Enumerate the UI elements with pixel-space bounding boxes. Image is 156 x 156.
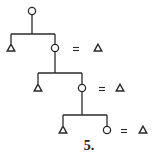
circle-node-icon <box>103 126 110 133</box>
tree-diagram <box>0 0 156 156</box>
triangle-node-icon <box>7 44 15 51</box>
circle-node-icon <box>51 44 58 51</box>
triangle-node-icon <box>34 84 42 91</box>
triangle-node-icon <box>139 126 147 133</box>
figure-caption: 5. <box>79 138 99 154</box>
triangle-node-icon <box>59 126 67 133</box>
triangle-node-icon <box>94 44 102 51</box>
circle-node-icon <box>28 7 35 14</box>
circle-node-icon <box>78 84 85 91</box>
triangle-node-icon <box>116 84 124 91</box>
